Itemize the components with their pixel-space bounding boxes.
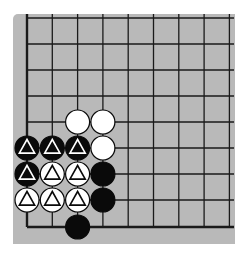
black-stone[interactable] — [91, 162, 115, 186]
white-stone[interactable] — [91, 136, 115, 160]
white-stone[interactable] — [91, 110, 115, 134]
black-stone[interactable] — [66, 215, 90, 239]
white-stone[interactable] — [66, 110, 90, 134]
go-board-grid — [0, 0, 243, 255]
black-stone[interactable] — [91, 188, 115, 212]
